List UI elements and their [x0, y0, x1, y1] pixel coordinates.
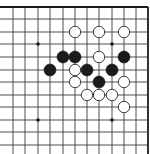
white-stone[interactable]: [106, 89, 117, 100]
black-stone[interactable]: [118, 51, 130, 63]
white-stone[interactable]: [81, 89, 92, 100]
white-stone[interactable]: [93, 89, 104, 100]
white-stone[interactable]: [118, 26, 129, 37]
black-stone[interactable]: [81, 64, 93, 76]
black-stone[interactable]: [106, 64, 118, 76]
star-point-icon: [36, 118, 40, 122]
white-stone[interactable]: [69, 76, 80, 87]
white-stone[interactable]: [93, 51, 104, 62]
star-point-icon: [110, 42, 114, 46]
star-point-icon: [36, 42, 40, 46]
black-stone[interactable]: [93, 76, 105, 88]
white-stone[interactable]: [69, 26, 80, 37]
star-point-icon: [110, 118, 114, 122]
black-stone[interactable]: [57, 51, 69, 63]
go-board[interactable]: [0, 0, 150, 154]
white-stone[interactable]: [93, 26, 104, 37]
white-stone[interactable]: [118, 101, 129, 112]
black-stone[interactable]: [69, 51, 81, 63]
black-stone[interactable]: [44, 64, 56, 76]
white-stone[interactable]: [69, 64, 80, 75]
white-stone[interactable]: [118, 76, 129, 87]
